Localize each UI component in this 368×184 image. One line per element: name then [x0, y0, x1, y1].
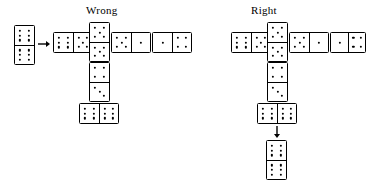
pip	[281, 36, 283, 38]
pip	[245, 46, 247, 48]
pip	[93, 107, 95, 109]
pip	[58, 46, 60, 48]
wrong-domino-5-1	[111, 32, 151, 53]
pip	[177, 46, 179, 48]
pip	[280, 149, 282, 151]
pip	[281, 27, 283, 29]
pip	[272, 87, 274, 89]
tile-half-right	[309, 33, 328, 52]
pip	[290, 107, 292, 109]
wrong-domino-6-5	[53, 32, 93, 53]
wrong-label: Wrong	[86, 4, 118, 16]
pip	[276, 91, 278, 93]
pip	[256, 46, 258, 48]
right-domino-1-4	[330, 32, 366, 53]
pip	[84, 112, 86, 114]
pip	[177, 37, 179, 39]
pip	[276, 51, 278, 53]
pip	[281, 95, 283, 97]
tile-half-top	[90, 63, 109, 82]
pip	[98, 51, 100, 53]
pip	[272, 67, 274, 69]
tile-half-left	[112, 33, 131, 52]
pip	[19, 34, 21, 36]
pip	[94, 67, 96, 69]
pip	[262, 112, 264, 114]
pip	[281, 67, 283, 69]
pip	[262, 117, 264, 119]
pip	[271, 107, 273, 109]
pip	[94, 87, 96, 89]
pip	[271, 169, 273, 171]
pip	[116, 37, 118, 39]
right-domino-6-6-played	[266, 140, 287, 180]
tile-half-left	[290, 33, 309, 52]
pip	[294, 37, 296, 39]
pip	[303, 46, 305, 48]
pip	[28, 59, 30, 61]
pip	[262, 107, 264, 109]
pip	[86, 46, 88, 48]
pip	[94, 27, 96, 29]
pip	[272, 36, 274, 38]
pip	[280, 144, 282, 146]
tile-half-right	[277, 104, 296, 123]
tile-half-top	[15, 26, 34, 45]
pip	[161, 41, 163, 43]
pip	[84, 117, 86, 119]
pip	[67, 36, 69, 38]
pip	[93, 117, 95, 119]
pip	[280, 154, 282, 156]
pip	[58, 41, 60, 43]
pip	[19, 59, 21, 61]
pip	[360, 46, 362, 48]
pip	[112, 112, 114, 114]
tile-half-left	[153, 33, 172, 52]
pip	[276, 31, 278, 33]
tile-half-bottom	[268, 42, 287, 61]
tile-half-right	[348, 33, 365, 52]
pip	[281, 76, 283, 78]
pip	[104, 112, 106, 114]
pip	[272, 47, 274, 49]
pip	[272, 76, 274, 78]
pip	[318, 41, 320, 43]
pip	[236, 41, 238, 43]
tile-half-top	[267, 141, 286, 160]
pip	[67, 46, 69, 48]
pip	[78, 46, 80, 48]
pip	[185, 46, 187, 48]
wrong-domino-4-3	[89, 62, 110, 102]
pip	[78, 37, 80, 39]
pip	[120, 41, 122, 43]
pip	[112, 117, 114, 119]
pip	[58, 36, 60, 38]
tile-half-right	[172, 33, 191, 52]
pip	[112, 107, 114, 109]
pip	[140, 41, 142, 43]
pip	[245, 36, 247, 38]
tile-half-left	[80, 104, 99, 123]
pip	[271, 154, 273, 156]
pip	[103, 27, 105, 29]
tile-half-left	[331, 33, 348, 52]
wrong-domino-6-6-branch	[79, 103, 119, 124]
pip	[271, 174, 273, 176]
pip	[271, 144, 273, 146]
tile-half-right	[99, 104, 118, 123]
tile-half-bottom	[90, 82, 109, 101]
pip	[271, 112, 273, 114]
right-domino-5-1	[289, 32, 329, 53]
tile-half-left	[54, 33, 73, 52]
pip	[98, 31, 100, 33]
right-domino-4-3	[267, 62, 288, 102]
right-domino-5-5-center	[267, 22, 288, 62]
pip	[260, 41, 262, 43]
pip	[94, 55, 96, 57]
wrong-domino-1-4	[152, 32, 192, 53]
pip	[236, 46, 238, 48]
tile-half-right	[131, 33, 150, 52]
pip	[294, 46, 296, 48]
play-arrow-down-icon	[273, 126, 281, 138]
pip	[19, 29, 21, 31]
